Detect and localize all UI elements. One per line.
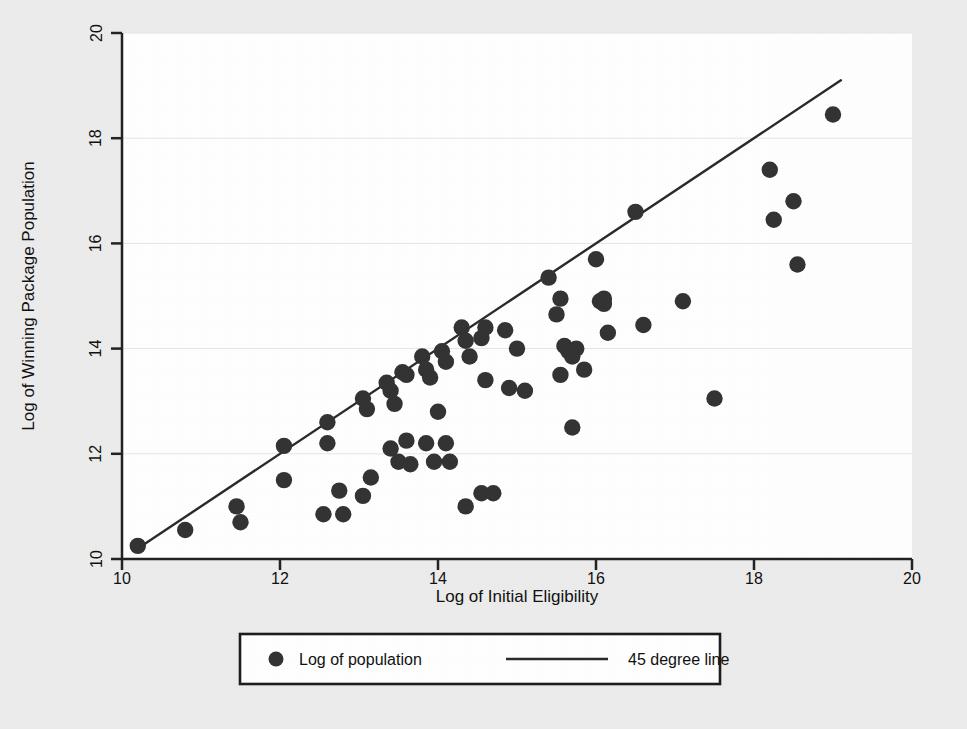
- scatter-point: [402, 456, 418, 472]
- legend-label-population: Log of population: [299, 651, 422, 668]
- scatter-point: [457, 498, 473, 514]
- scatter-point: [130, 538, 146, 554]
- scatter-point: [485, 485, 501, 501]
- scatter-chart: 101214161820 101214161820 Log of Initial…: [0, 0, 967, 729]
- scatter-point: [359, 401, 375, 417]
- scatter-point: [398, 367, 414, 383]
- scatter-point: [386, 396, 402, 412]
- y-axis-title: Log of Winning Package Population: [19, 161, 38, 430]
- scatter-point: [276, 472, 292, 488]
- scatter-point: [517, 382, 533, 398]
- scatter-point: [319, 414, 335, 430]
- y-tick-label: 16: [88, 234, 105, 252]
- scatter-point: [477, 319, 493, 335]
- scatter-point: [398, 432, 414, 448]
- y-tick-label: 20: [88, 24, 105, 42]
- scatter-point: [596, 290, 612, 306]
- y-tick-label: 10: [88, 550, 105, 568]
- scatter-point: [509, 340, 525, 356]
- y-axis-tick-labels: 101214161820: [88, 24, 105, 568]
- y-tick-label: 18: [88, 129, 105, 147]
- x-axis-title: Log of Initial Eligibility: [436, 587, 599, 606]
- scatter-point: [418, 435, 434, 451]
- scatter-point: [825, 106, 841, 122]
- x-axis-tick-labels: 101214161820: [113, 570, 921, 587]
- y-tick-label: 12: [88, 445, 105, 463]
- y-tick-label: 14: [88, 340, 105, 358]
- scatter-point: [627, 204, 643, 220]
- scatter-point: [497, 322, 513, 338]
- scatter-point: [430, 404, 446, 420]
- scatter-point: [319, 435, 335, 451]
- x-tick-label: 16: [587, 570, 605, 587]
- scatter-point: [568, 340, 584, 356]
- scatter-point: [501, 380, 517, 396]
- scatter-point: [228, 498, 244, 514]
- scatter-point: [548, 306, 564, 322]
- x-tick-label: 18: [745, 570, 763, 587]
- scatter-point: [552, 367, 568, 383]
- legend-label-45-degree: 45 degree line: [628, 651, 730, 668]
- scatter-point: [477, 372, 493, 388]
- x-tick-label: 14: [429, 570, 447, 587]
- scatter-point: [588, 251, 604, 267]
- x-tick-label: 20: [903, 570, 921, 587]
- scatter-point: [564, 419, 580, 435]
- scatter-point: [457, 333, 473, 349]
- scatter-point: [422, 369, 438, 385]
- scatter-point: [426, 453, 442, 469]
- scatter-point: [675, 293, 691, 309]
- scatter-point: [276, 438, 292, 454]
- legend-marker-icon-population: [269, 652, 284, 667]
- figure-container: 101214161820 101214161820 Log of Initial…: [0, 0, 967, 729]
- scatter-point: [762, 162, 778, 178]
- scatter-point: [789, 256, 805, 272]
- x-tick-label: 12: [271, 570, 289, 587]
- scatter-point: [315, 506, 331, 522]
- scatter-point: [442, 453, 458, 469]
- y-axis-ticks: [111, 33, 122, 559]
- legend: Log of population 45 degree line: [240, 634, 730, 684]
- scatter-point: [576, 361, 592, 377]
- scatter-point: [331, 482, 347, 498]
- scatter-point: [232, 514, 248, 530]
- scatter-point: [635, 317, 651, 333]
- scatter-point: [177, 522, 193, 538]
- x-axis-ticks: [122, 559, 912, 570]
- scatter-point: [438, 435, 454, 451]
- scatter-point: [335, 506, 351, 522]
- scatter-point: [438, 354, 454, 370]
- scatter-point: [552, 290, 568, 306]
- scatter-point: [706, 390, 722, 406]
- scatter-point: [540, 269, 556, 285]
- scatter-point: [363, 469, 379, 485]
- scatter-point: [766, 212, 782, 228]
- scatter-point: [785, 193, 801, 209]
- x-tick-label: 10: [113, 570, 131, 587]
- scatter-point: [600, 325, 616, 341]
- scatter-point: [461, 348, 477, 364]
- scatter-point: [355, 488, 371, 504]
